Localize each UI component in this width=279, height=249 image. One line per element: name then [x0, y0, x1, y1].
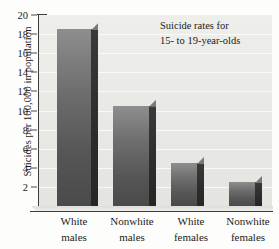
y-tick-label-10: 10	[18, 105, 29, 116]
bar-side	[255, 182, 262, 206]
y-tick-mark-2	[31, 186, 37, 187]
category-label-nonwhite-females: Nonwhite females	[210, 214, 279, 245]
x-axis-category-labels: White males Nonwhite males White females…	[38, 214, 279, 249]
bar-front	[57, 29, 91, 206]
category-label-line-2: females	[210, 230, 279, 246]
y-tick-mark-12	[31, 91, 37, 92]
bar-top	[197, 157, 204, 164]
bar-side	[197, 163, 204, 206]
bar-front	[171, 163, 197, 206]
bar-nonwhite-males	[113, 106, 149, 206]
y-tick-mark-8	[31, 129, 37, 130]
y-tick-label-12: 12	[18, 86, 29, 97]
category-label-line-1: Nonwhite	[210, 214, 279, 230]
chart-annotation: Suicide rates for 15- to 19-year-olds	[160, 18, 240, 48]
bar-white-males	[57, 29, 91, 206]
annotation-line-1: Suicide rates for	[160, 18, 240, 33]
y-tick-mark-16	[31, 53, 37, 54]
y-tick-mark-4	[31, 167, 37, 168]
y-tick-mark-10	[31, 110, 37, 111]
bar-front	[113, 106, 149, 206]
bar-chart-figure: Suicides per 100,000 in population 20 18…	[0, 0, 279, 249]
y-tick-mark-6	[31, 148, 37, 149]
y-tick-label-6: 6	[23, 143, 28, 154]
y-tick-label-16: 16	[18, 48, 29, 59]
bar-front	[229, 182, 255, 206]
y-tick-mark-20	[31, 15, 37, 16]
y-tick-label-2: 2	[23, 181, 28, 192]
bar-white-females	[171, 163, 197, 206]
bar-top	[149, 100, 156, 107]
annotation-line-2: 15- to 19-year-olds	[160, 33, 240, 48]
y-tick-label-18: 18	[18, 29, 29, 40]
y-tick-label-14: 14	[18, 67, 29, 78]
x-axis-baseline	[30, 211, 273, 212]
y-tick-label-20: 20	[18, 10, 29, 21]
y-tick-mark-18	[31, 34, 37, 35]
y-tick-label-8: 8	[23, 124, 28, 135]
y-tick-label-4: 4	[23, 162, 28, 173]
bar-nonwhite-females	[229, 182, 255, 206]
bar-top	[91, 23, 98, 30]
y-tick-mark-14	[31, 72, 37, 73]
bar-side	[91, 29, 98, 206]
bar-side	[149, 106, 156, 206]
